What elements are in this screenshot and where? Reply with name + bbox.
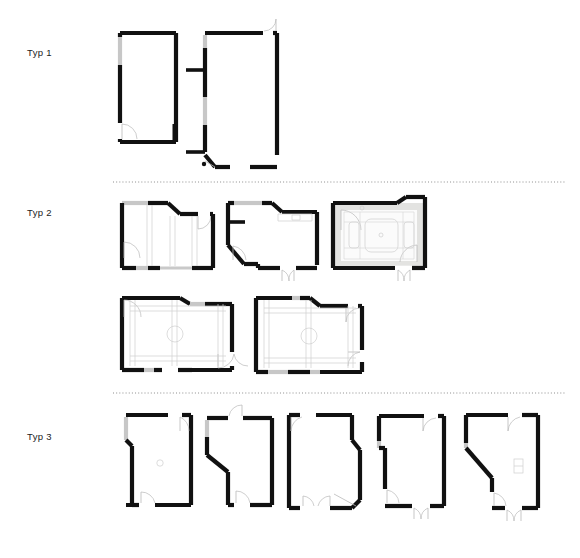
door-swing-icon	[398, 270, 404, 281]
door-swing-icon	[198, 216, 211, 229]
plan-drawing-layer	[0, 0, 580, 558]
typ2-plan-5	[256, 298, 362, 372]
door-swing-icon	[291, 417, 302, 431]
typ3-plan-3	[289, 415, 360, 508]
door-swing-icon	[348, 352, 360, 366]
door-swing-icon	[124, 242, 140, 258]
typ3-plan-5	[466, 415, 538, 521]
typ2-plan-1	[122, 203, 213, 268]
door-swing-icon	[264, 19, 276, 31]
typ2-plan-4	[122, 298, 248, 370]
typ1-plan-2	[186, 19, 277, 167]
door-swing-icon	[508, 417, 520, 431]
floorplan-sheet: Typ 1 Typ 2 Typ 3	[0, 0, 580, 558]
door-swing-icon	[494, 493, 506, 506]
door-swing-icon	[318, 496, 330, 506]
typ3-plan-4	[379, 416, 444, 519]
door-swing-icon	[421, 508, 428, 519]
door-swing-icon	[404, 270, 410, 281]
door-swing-icon	[423, 418, 436, 431]
door-swing-icon	[124, 300, 141, 317]
door-swing-icon	[236, 491, 250, 503]
door-swing-icon	[507, 510, 514, 521]
door-swing-icon	[514, 510, 521, 521]
door-swing-icon	[141, 492, 155, 503]
reveal-line	[334, 494, 356, 506]
sink-fixture	[292, 215, 300, 220]
typ2-plan-3	[333, 197, 425, 281]
column-marker	[301, 328, 317, 344]
typ3-plan-1	[126, 415, 191, 505]
door-swing-icon	[122, 124, 137, 139]
door-swing-icon	[282, 270, 289, 281]
column-marker	[167, 326, 183, 342]
door-swing-icon	[387, 490, 399, 503]
entry-dot	[202, 162, 206, 166]
door-swing-icon	[303, 496, 314, 506]
typ2-plan-2	[228, 203, 317, 281]
column-marker	[157, 460, 163, 466]
door-swing-icon	[180, 417, 189, 431]
door-swing-icon	[229, 405, 242, 416]
door-swing-icon	[234, 354, 248, 366]
typ1-plan-1	[120, 33, 176, 142]
door-swing-icon	[289, 270, 294, 281]
typ3-plan-2	[207, 405, 272, 505]
door-swing-icon	[414, 508, 421, 519]
